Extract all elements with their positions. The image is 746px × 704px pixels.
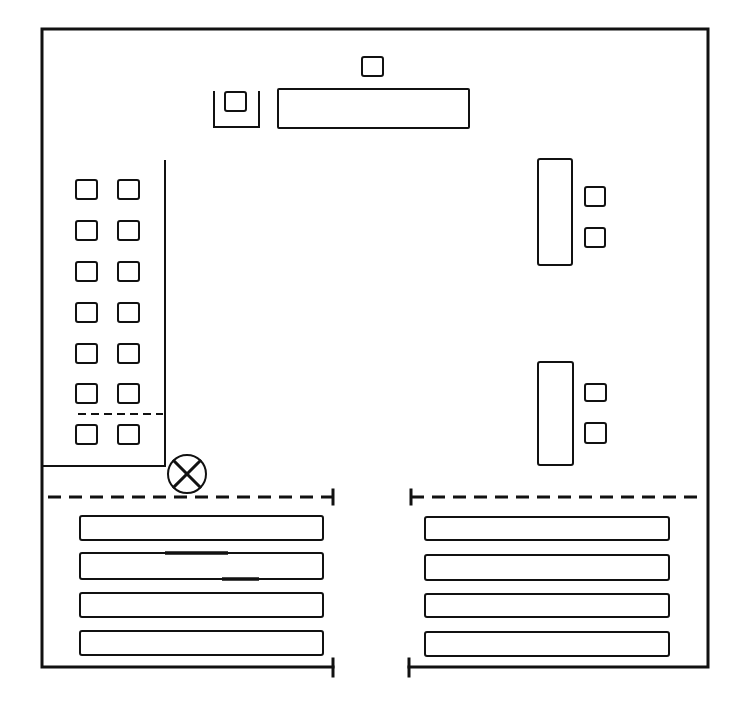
left-room-seat-grid bbox=[76, 180, 139, 444]
door-opening-ticks bbox=[333, 659, 409, 676]
seat-box bbox=[76, 425, 97, 444]
seat-box bbox=[76, 180, 97, 199]
seat-box bbox=[76, 384, 97, 403]
left-room-partition bbox=[42, 160, 165, 466]
desk bbox=[538, 362, 573, 465]
desk bbox=[538, 159, 572, 265]
bench bbox=[425, 632, 669, 656]
benches-right bbox=[425, 517, 669, 656]
desk-group bbox=[538, 362, 606, 465]
bench bbox=[80, 593, 323, 617]
seat-box bbox=[118, 180, 139, 199]
chair bbox=[585, 187, 605, 206]
floor-plan bbox=[0, 0, 746, 704]
bench bbox=[80, 516, 323, 540]
cross-circle-icon bbox=[168, 455, 206, 493]
chair bbox=[585, 384, 606, 401]
u-inner-box bbox=[225, 92, 246, 111]
long-table bbox=[278, 89, 469, 128]
top-small-box bbox=[362, 57, 383, 76]
seat-box bbox=[118, 344, 139, 363]
seat-box bbox=[76, 221, 97, 240]
bench bbox=[80, 553, 323, 579]
bench bbox=[425, 594, 669, 617]
seat-box bbox=[118, 262, 139, 281]
right-desks bbox=[538, 159, 606, 465]
benches-left bbox=[80, 516, 323, 655]
seat-box bbox=[76, 262, 97, 281]
seat-box bbox=[118, 221, 139, 240]
chair bbox=[585, 423, 606, 443]
seat-box bbox=[76, 303, 97, 322]
bench bbox=[425, 517, 669, 540]
bench bbox=[80, 631, 323, 655]
bench bbox=[425, 555, 669, 580]
desk-group bbox=[538, 159, 605, 265]
dashed-dividers bbox=[48, 490, 702, 504]
seat-box bbox=[118, 425, 139, 444]
seat-box bbox=[118, 384, 139, 403]
seat-box bbox=[118, 303, 139, 322]
chair bbox=[585, 228, 605, 247]
seat-box bbox=[76, 344, 97, 363]
